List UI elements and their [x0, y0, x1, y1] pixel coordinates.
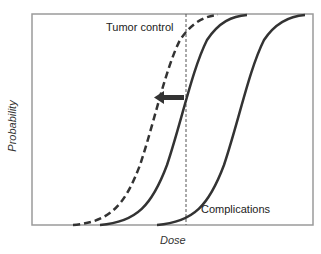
complications-label: Complications — [201, 203, 270, 215]
x-axis-label: Dose — [160, 234, 186, 246]
tumor-control-shifted-curve — [73, 15, 218, 225]
shift-arrow-icon — [154, 91, 184, 104]
y-axis-label: Probability — [6, 96, 18, 156]
chart-canvas — [0, 0, 321, 254]
plot-frame — [32, 14, 313, 225]
tumor-control-label: Tumor control — [106, 21, 173, 33]
tumor-control-curve — [100, 15, 247, 225]
